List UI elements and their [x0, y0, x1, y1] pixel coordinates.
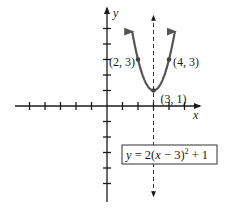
parabola-right-branch: [154, 32, 175, 91]
point-label: (2, 3): [109, 55, 135, 69]
parabola-left-branch: [132, 32, 153, 91]
equation-label: y = 2(x − 3)2 + 1: [124, 147, 208, 162]
x-axis-label: x: [192, 108, 199, 122]
point-label: (4, 3): [173, 55, 199, 69]
data-point: [167, 57, 172, 62]
data-point: [136, 57, 141, 62]
point-label: (3, 1): [161, 92, 187, 106]
parabola-plot: xy(2, 3)(4, 3)(3, 1)y = 2(x − 3)2 + 1: [0, 0, 228, 215]
data-point: [151, 88, 156, 93]
y-axis-label: y: [112, 6, 119, 20]
